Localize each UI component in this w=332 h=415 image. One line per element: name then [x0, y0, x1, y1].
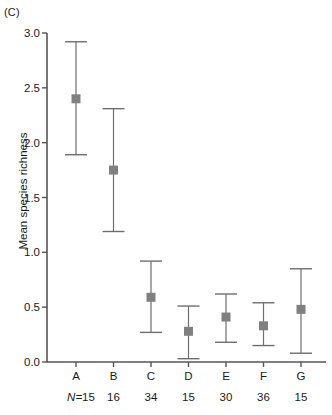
mean-marker [147, 293, 156, 302]
plot-area [0, 0, 332, 415]
mean-marker [184, 327, 193, 336]
sample-size-label: 36 [257, 391, 270, 403]
sample-size-label: 16 [107, 391, 120, 403]
x-tick-label: D [184, 370, 192, 382]
x-tick-label: A [72, 370, 80, 382]
x-tick-label: B [110, 370, 118, 382]
sample-size-value: 15 [82, 391, 95, 403]
mean-marker [222, 313, 231, 322]
sample-size-label: 30 [220, 391, 233, 403]
mean-marker [109, 166, 118, 175]
x-tick-label: G [297, 370, 306, 382]
x-tick-label: F [260, 370, 267, 382]
sample-size-prefix: N= [67, 391, 82, 403]
sample-size-label: 15 [182, 391, 195, 403]
mean-marker [72, 94, 81, 103]
x-tick-label: C [147, 370, 155, 382]
sample-size-label: 34 [145, 391, 158, 403]
x-tick-label: E [222, 370, 230, 382]
sample-size-label: 15 [295, 391, 308, 403]
figure-panel-c: (C) Mean species richness 0.00.51.01.52.… [0, 0, 332, 415]
mean-marker [297, 305, 306, 314]
mean-marker [259, 321, 268, 330]
sample-size-label: N=15 [67, 391, 95, 403]
